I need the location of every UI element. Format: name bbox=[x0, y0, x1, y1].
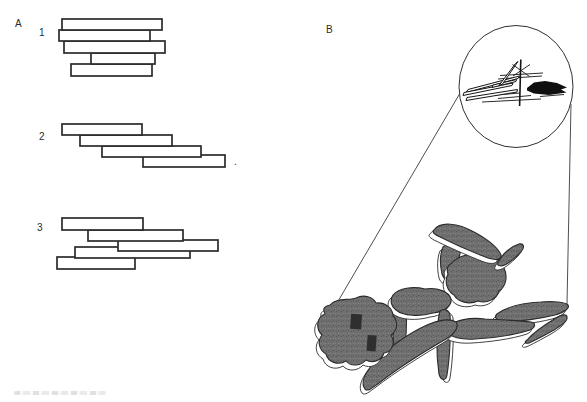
magnifier-inset bbox=[459, 26, 573, 148]
panel-a-stray-period: . bbox=[234, 156, 237, 167]
panel-a-group2-label: 2 bbox=[39, 131, 45, 142]
platelet-bar-group1 bbox=[71, 64, 152, 76]
platelet-bar-group2 bbox=[62, 124, 142, 135]
platelet-bar-group1 bbox=[64, 41, 165, 53]
platelet-bar-group2 bbox=[102, 146, 201, 157]
panel-a-bar-diagrams bbox=[57, 19, 225, 269]
panel-a-label: A bbox=[15, 18, 22, 29]
platelet-bar-group3 bbox=[62, 218, 143, 230]
panel-b-label: B bbox=[326, 24, 333, 35]
platelet-bar-group2 bbox=[80, 135, 172, 146]
panel-a-group3-label: 3 bbox=[37, 222, 43, 233]
platelet-bar-group1 bbox=[62, 19, 162, 30]
figure-stage: A 1 2 3 . B bbox=[0, 0, 587, 402]
platelet-bar-group3 bbox=[88, 230, 183, 241]
figure-canvas: A 1 2 3 . B bbox=[0, 0, 587, 402]
platelet-bar-group1 bbox=[91, 53, 155, 64]
cropped-caption-fragment bbox=[14, 391, 106, 395]
platelet-bar-group1 bbox=[59, 30, 150, 41]
panel-a-group1-label: 1 bbox=[39, 27, 45, 38]
magnifier-line-right bbox=[567, 104, 571, 304]
particle-aggregate-cluster bbox=[315, 224, 569, 394]
